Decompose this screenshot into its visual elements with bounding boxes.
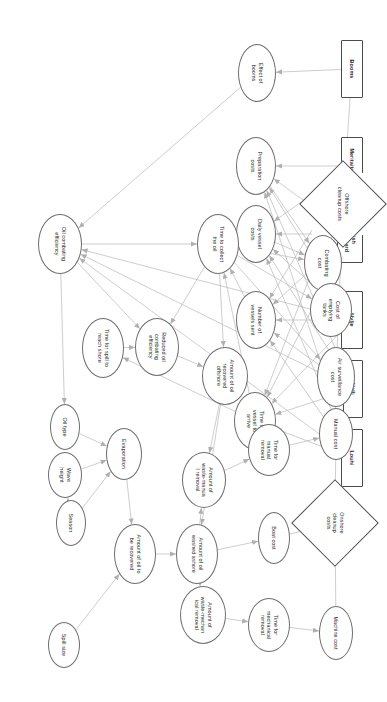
- edge-prepcosts-to-combatcost: [270, 187, 309, 244]
- node-airsurv[interactable]: Air surveillancecost: [317, 347, 355, 407]
- node-timetoshore[interactable]: Time for spill toreach shore: [82, 318, 124, 378]
- node-label: Air surveillancecost: [329, 356, 342, 398]
- edge-wastemech-to-timemech: [226, 619, 248, 622]
- edge-season-to-evaporation: [82, 471, 110, 508]
- node-label: Machine cost: [333, 615, 340, 652]
- node-label: Booms: [349, 58, 356, 81]
- node-label: Amount of oil tobe recovered: [128, 532, 141, 575]
- node-label: Louhi: [349, 448, 356, 467]
- node-waveheight[interactable]: Waveheight: [48, 452, 82, 498]
- node-label: Combatingcost: [316, 248, 329, 279]
- edge-timemech-to-machinecost: [290, 628, 319, 632]
- edge-waveheight-to-evaporation: [81, 460, 106, 469]
- node-label: Daily vesselcosts: [249, 217, 262, 251]
- node-onshorecost[interactable]: Onshorecleanupcosts: [304, 492, 366, 554]
- node-label: Season: [68, 512, 75, 535]
- node-label: Oil combatingefficiency: [53, 225, 66, 263]
- node-prepcosts[interactable]: Preparationcosts: [236, 137, 276, 195]
- node-label: Offshorecleanup costs: [336, 185, 349, 223]
- node-label: Boat cost: [271, 524, 278, 551]
- node-wastemech[interactable]: Amount ofwaste-mechanical removal: [180, 586, 226, 644]
- node-label: Amount ofwaste-mechanical removal: [193, 595, 213, 635]
- edge-booms-to-effectbooms: [276, 70, 341, 73]
- node-label: Time formanualremoval: [259, 438, 279, 462]
- node-booms[interactable]: Booms: [341, 40, 363, 98]
- node-label: Time for spill toreach shore: [96, 327, 109, 369]
- node-evaporation[interactable]: Evaporation: [106, 428, 142, 480]
- node-season[interactable]: Season: [56, 500, 86, 546]
- node-label: Spill size: [61, 632, 68, 658]
- node-timecollect[interactable]: Time to collectthe oil: [197, 214, 239, 274]
- node-label: Effect ofbooms: [250, 61, 263, 86]
- node-label: Amount of oilwashed ashore: [190, 533, 203, 575]
- node-label: Evaporation: [121, 437, 128, 471]
- node-spillsize[interactable]: Spill size: [48, 622, 80, 668]
- node-oilcombateff[interactable]: Oil combatingefficiency: [38, 214, 82, 274]
- node-oiltype[interactable]: Oil type: [50, 404, 80, 450]
- node-reducedeff[interactable]: Reduced oilcombatingefficiency: [135, 318, 179, 376]
- node-manualcost[interactable]: Manual cost: [319, 408, 353, 460]
- edge-numvessels-to-timecollect: [230, 268, 244, 296]
- node-boatcost[interactable]: Boat cost: [258, 512, 290, 564]
- node-amttorecover[interactable]: Amount of oil tobe recovered: [114, 524, 156, 584]
- node-label: Cost ofemptyingtanks: [321, 297, 341, 324]
- edge-oilcombateff-to-oiltype: [61, 274, 65, 404]
- node-timemanual[interactable]: Time formanualremoval: [248, 424, 290, 476]
- node-offshorecost[interactable]: Offshorecleanup costs: [312, 173, 374, 235]
- node-label: Reduced oilcombatingefficiency: [147, 330, 167, 364]
- node-effectbooms[interactable]: Effect ofbooms: [238, 44, 276, 102]
- node-timemech[interactable]: Time formechanicalremoval: [248, 598, 290, 652]
- edge-washedashore-to-boatcost: [218, 541, 258, 549]
- edge-reducedeff-to-amtoffshore: [178, 356, 203, 367]
- node-label: Number ofvessels sent: [249, 303, 262, 338]
- edge-wastemanual-to-timemanual: [225, 459, 250, 470]
- node-dailyvessel[interactable]: Daily vesselcosts: [236, 205, 276, 263]
- node-wastemanual[interactable]: Amount ofwaste-manual removal: [182, 452, 226, 508]
- node-label: Manual cost: [333, 417, 340, 451]
- node-label: Amount of oilrecoveredoffshore: [215, 358, 235, 395]
- edge-evaporation-to-amttorecover: [127, 480, 132, 525]
- node-emptytanks[interactable]: Cost ofemptyingtanks: [310, 283, 352, 337]
- node-amtoffshore[interactable]: Amount of oilrecoveredoffshore: [202, 347, 248, 405]
- node-numvessels[interactable]: Number ofvessels sent: [236, 291, 276, 349]
- node-washedashore[interactable]: Amount of oilwashed ashore: [176, 524, 218, 584]
- edge-timecollect-to-amtoffshore: [220, 274, 224, 347]
- node-label: Preparationcosts: [249, 150, 262, 183]
- edge-amtoffshore-to-wastemanual: [210, 404, 220, 453]
- node-combatcost[interactable]: Combatingcost: [304, 235, 342, 291]
- edge-effectbooms-to-oilcombateff: [79, 87, 241, 228]
- node-label: Oil type: [62, 415, 69, 438]
- edge-oiltype-to-evaporation: [79, 434, 106, 447]
- edge-timecollect-to-reducedeff: [171, 267, 205, 324]
- node-label: Onshorecleanupcosts: [325, 510, 345, 535]
- node-label: Amount ofwaste-manual removal: [194, 461, 214, 498]
- node-machinecost[interactable]: Machine cost: [319, 606, 353, 660]
- node-label: Time formechanicalremoval: [259, 609, 279, 641]
- node-label: Time to collectthe oil: [211, 224, 224, 264]
- node-label: Waveheight: [58, 465, 71, 484]
- edge-spillsize-to-amttorecover: [76, 574, 120, 630]
- edge-washedashore-to-wastemanual: [200, 508, 202, 525]
